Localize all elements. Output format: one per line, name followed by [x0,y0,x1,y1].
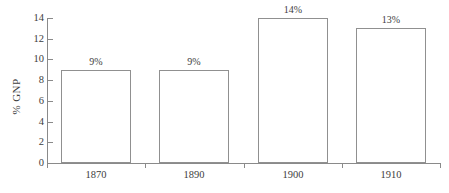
x-tick-label: 1910 [342,169,440,181]
bar-value-label: 9% [145,56,243,67]
y-tick-label-text: 2 [22,137,44,147]
x-tick-label: 1890 [145,169,243,181]
y-tick-label-text: 4 [22,117,44,127]
y-tick-label: 6 [16,96,44,106]
x-tick-mark [145,163,146,168]
y-tick-label-text: 12 [22,34,44,44]
y-tick-mark [47,80,53,81]
y-tick-label-text: 0 [22,158,44,168]
x-tick-mark [244,163,245,168]
y-tick-label: 4 [16,117,44,127]
y-tick-label-text: 6 [22,96,44,106]
x-tick-mark [47,163,48,168]
y-tick-label-text: 8 [22,75,44,85]
y-tick-mark [47,142,53,143]
x-tick-mark [440,163,441,168]
y-tick-label: 12 [16,34,44,44]
bar [159,70,229,163]
y-tick-mark [47,122,53,123]
y-tick-label: 8 [16,75,44,85]
y-tick-mark [47,39,53,40]
y-tick-label: 2 [16,137,44,147]
bar [258,18,328,163]
bar-value-label: 9% [47,56,145,67]
y-tick-label: 14 [16,13,44,23]
y-tick-mark [47,18,53,19]
y-tick-label-text: 10 [22,54,44,64]
y-tick-label: 10 [16,54,44,64]
bar [61,70,131,163]
y-tick-mark [47,101,53,102]
y-tick-label-text: 14 [22,13,44,23]
bar-chart: % GNP 02468101214 1870189019001910 9%9%1… [0,0,449,193]
x-tick-label: 1900 [244,169,342,181]
bar-value-label: 14% [244,4,342,15]
bar-value-label: 13% [342,14,440,25]
x-tick-label: 1870 [47,169,145,181]
bar [356,28,426,163]
y-tick-label: 0 [16,158,44,168]
x-tick-mark [342,163,343,168]
